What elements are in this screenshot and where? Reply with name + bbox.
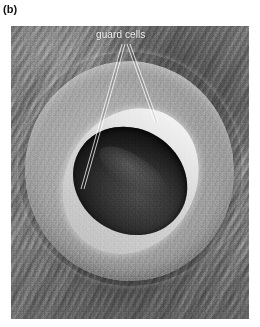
annotation-label-guard-cells: guard cells	[96, 29, 145, 41]
micrograph-image	[11, 26, 249, 319]
panel-label: (b)	[3, 2, 17, 16]
image-grain	[11, 26, 249, 319]
